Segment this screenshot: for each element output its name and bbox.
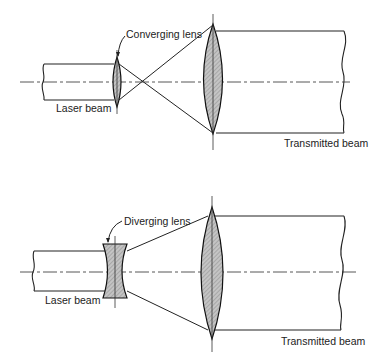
diverging-lens-label: Diverging lens (124, 215, 191, 227)
transmitted-beam (215, 216, 345, 330)
diverging-beam-expander: Diverging lens Laser beam Transmitted be… (20, 196, 365, 352)
converging-lens-label: Converging lens (126, 28, 202, 40)
transmitted-beam-label-bottom: Transmitted beam (281, 335, 365, 347)
laser-beam-label-bottom: Laser beam (45, 294, 101, 306)
focused-rays (119, 25, 213, 133)
transmitted-beam-label-top: Transmitted beam (284, 137, 368, 149)
converging-lens (113, 50, 121, 114)
diverging-rays (127, 216, 208, 330)
beam-expander-diagrams: Converging lens Laser beam Transmitted b… (0, 0, 376, 360)
converging-beam-expander: Converging lens Laser beam Transmitted b… (20, 14, 368, 150)
collimating-lens (204, 14, 223, 150)
laser-beam-input (32, 251, 105, 291)
laser-beam-label-top: Laser beam (56, 102, 112, 114)
